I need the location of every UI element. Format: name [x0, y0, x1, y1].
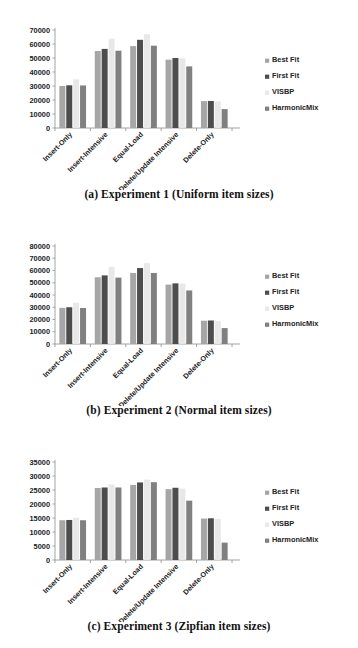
legend-swatch-first-fit: [265, 75, 269, 79]
bar-visbp-insert-intensive: [109, 484, 115, 560]
bar-visbp-insert-intensive: [109, 39, 115, 128]
bar-first-fit-insert-only: [66, 85, 72, 128]
bar-harmonicmix-delete-update-intensive: [186, 501, 192, 560]
caption-c: (c) Experiment 3 (Zipfian item sizes): [0, 620, 358, 632]
bar-best-fit-delete-update-intensive: [166, 285, 172, 344]
bar-harmonicmix-equal-load: [151, 46, 157, 128]
bar-visbp-equal-load: [144, 263, 150, 344]
bar-best-fit-insert-only: [59, 308, 65, 344]
bar-best-fit-delete-only: [201, 321, 207, 344]
bar-harmonicmix-delete-only: [222, 328, 228, 344]
legend-label-harmonicmix: HarmonicMix: [272, 103, 319, 112]
bar-visbp-delete-update-intensive: [179, 284, 185, 344]
legend-swatch-best-fit: [265, 491, 269, 495]
bar-first-fit-delete-update-intensive: [172, 283, 178, 344]
bar-best-fit-delete-only: [201, 101, 207, 128]
legend-swatch-harmonicmix: [265, 539, 269, 543]
bar-visbp-equal-load: [144, 480, 150, 560]
bar-best-fit-insert-only: [59, 520, 65, 560]
bar-harmonicmix-equal-load: [151, 482, 157, 560]
bar-harmonicmix-insert-intensive: [115, 51, 121, 128]
bar-visbp-delete-only: [215, 101, 221, 128]
x-axis-tick-label: Insert-Only: [41, 130, 74, 163]
legend-label-best-fit: Best Fit: [272, 271, 300, 280]
bar-best-fit-equal-load: [130, 485, 136, 560]
caption-a: (a) Experiment 1 (Uniform item sizes): [0, 188, 358, 200]
x-axis-tick-label: Equal-Load: [111, 562, 145, 596]
bar-best-fit-delete-update-intensive: [166, 60, 172, 128]
bar-first-fit-delete-only: [208, 518, 214, 560]
y-axis-tick-label: 30000: [29, 82, 50, 91]
legend-swatch-visbp: [265, 307, 269, 311]
x-axis-tick-label: Equal-Load: [111, 130, 145, 164]
bar-visbp-delete-update-intensive: [179, 489, 185, 560]
legend-label-harmonicmix: HarmonicMix: [272, 319, 319, 328]
bar-first-fit-insert-intensive: [102, 487, 108, 560]
y-axis-tick-label: 20000: [29, 500, 50, 509]
bar-best-fit-insert-only: [59, 86, 65, 128]
bar-visbp-insert-only: [73, 518, 79, 560]
x-axis-tick-label: Delete/Update Intensive: [117, 130, 181, 190]
legend-label-visbp: VISBP: [272, 519, 294, 528]
y-axis-tick-label: 20000: [29, 315, 50, 324]
bar-harmonicmix-delete-update-intensive: [186, 66, 192, 128]
bar-best-fit-equal-load: [130, 273, 136, 344]
bar-first-fit-delete-update-intensive: [172, 58, 178, 128]
bar-first-fit-delete-update-intensive: [172, 488, 178, 560]
bar-visbp-insert-intensive: [109, 267, 115, 344]
bar-first-fit-insert-only: [66, 307, 72, 344]
bar-first-fit-insert-only: [66, 520, 72, 560]
legend-label-first-fit: First Fit: [272, 71, 300, 80]
x-axis-tick-label: Delete-Only: [181, 562, 216, 597]
chart-panel-b: 0100002000030000400005000060000700008000…: [0, 216, 358, 432]
bar-visbp-delete-only: [215, 321, 221, 344]
bar-best-fit-insert-intensive: [95, 488, 101, 560]
y-axis-tick-label: 70000: [29, 26, 50, 35]
y-axis-tick-label: 40000: [29, 68, 50, 77]
bar-visbp-insert-only: [73, 303, 79, 344]
bar-first-fit-equal-load: [137, 482, 143, 560]
legend-swatch-first-fit: [265, 291, 269, 295]
plot-area-b: 0100002000030000400005000060000700008000…: [0, 216, 358, 432]
legend-swatch-best-fit: [265, 275, 269, 279]
y-axis-tick-label: 60000: [29, 40, 50, 49]
y-axis-tick-label: 70000: [29, 254, 50, 263]
bar-first-fit-insert-intensive: [102, 275, 108, 344]
legend-label-first-fit: First Fit: [272, 503, 300, 512]
y-axis-tick-label: 25000: [29, 486, 50, 495]
bar-harmonicmix-delete-only: [222, 109, 228, 128]
legend-label-first-fit: First Fit: [272, 287, 300, 296]
x-axis-tick-label: Delete/Update Intensive: [117, 562, 181, 622]
y-axis-tick-label: 0: [46, 340, 50, 349]
bar-visbp-equal-load: [144, 34, 150, 128]
x-axis-tick-label: Insert-Only: [41, 562, 74, 595]
y-axis-tick-label: 40000: [29, 291, 50, 300]
legend-swatch-visbp: [265, 91, 269, 95]
bar-chart-c: 05000100001500020000250003000035000Inser…: [0, 432, 358, 622]
bar-visbp-insert-only: [73, 79, 79, 128]
bar-harmonicmix-insert-intensive: [115, 487, 121, 560]
x-axis-tick-label: Delete-Only: [181, 346, 216, 381]
bar-visbp-delete-only: [215, 519, 221, 560]
y-axis-tick-label: 50000: [29, 54, 50, 63]
y-axis-tick-label: 60000: [29, 266, 50, 275]
y-axis-tick-label: 15000: [29, 514, 50, 523]
y-axis-tick-label: 50000: [29, 278, 50, 287]
y-axis-tick-label: 20000: [29, 96, 50, 105]
bar-harmonicmix-equal-load: [151, 273, 157, 344]
bar-harmonicmix-insert-only: [80, 85, 86, 128]
legend-label-best-fit: Best Fit: [272, 487, 300, 496]
caption-b: (b) Experiment 2 (Normal item sizes): [0, 404, 358, 416]
y-axis-tick-label: 5000: [34, 542, 50, 551]
y-axis-tick-label: 30000: [29, 472, 50, 481]
legend-swatch-harmonicmix: [265, 323, 269, 327]
bar-harmonicmix-insert-intensive: [115, 278, 121, 344]
legend-label-harmonicmix: HarmonicMix: [272, 535, 319, 544]
bar-first-fit-insert-intensive: [102, 49, 108, 128]
bar-visbp-delete-update-intensive: [179, 58, 185, 128]
x-axis-tick-label: Delete/Update Intensive: [117, 346, 181, 406]
bar-first-fit-equal-load: [137, 268, 143, 344]
chart-panel-c: 05000100001500020000250003000035000Inser…: [0, 432, 358, 648]
legend-swatch-first-fit: [265, 507, 269, 511]
y-axis-tick-label: 10000: [29, 327, 50, 336]
